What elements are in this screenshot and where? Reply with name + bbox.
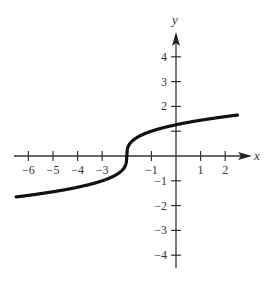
y-tick-label: 2	[161, 99, 167, 113]
x-axis-label: x	[253, 148, 260, 163]
y-tick-label: −4	[154, 248, 167, 262]
function-graph: −6−5−4−3−112432−1−2−3−4 x y	[0, 0, 279, 288]
axes	[14, 32, 252, 268]
x-tick-label: −3	[96, 163, 109, 177]
y-axis-label: y	[170, 12, 178, 27]
x-tick-label: −4	[71, 163, 84, 177]
y-tick-label: 3	[161, 75, 167, 89]
y-tick-label: −1	[154, 174, 167, 188]
y-tick-label: 4	[161, 50, 167, 64]
x-tick-label: −6	[22, 163, 35, 177]
x-tick-label: 1	[198, 163, 204, 177]
x-tick-label: −5	[47, 163, 60, 177]
y-tick-label: −2	[154, 199, 167, 213]
y-tick-label: −3	[154, 223, 167, 237]
x-tick-label: 2	[222, 163, 228, 177]
